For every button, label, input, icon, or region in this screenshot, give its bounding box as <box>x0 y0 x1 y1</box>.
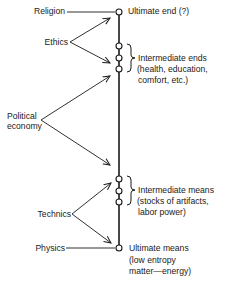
technics-label: Technics <box>38 209 71 220</box>
political-economy-arrow-down <box>41 120 110 165</box>
ultimate-means-detail-line1: (low entropy <box>129 255 176 266</box>
technics-arrow-down <box>72 214 111 243</box>
political-economy-arrow-up <box>41 76 110 120</box>
ultimate-means-detail-line2: matter—energy) <box>129 266 191 277</box>
ultimate-means-node <box>116 245 122 251</box>
ultimate-means-label: Ultimate means <box>129 243 189 254</box>
intermediate-end-node-2 <box>116 55 122 61</box>
political-economy-label-line2: economy <box>7 121 42 132</box>
intermediate-ends-detail-line1: (health, education, <box>137 64 208 75</box>
intermediate-means-node-3 <box>116 199 122 205</box>
ultimate-end-node <box>116 9 122 15</box>
ends-means-spectrum-diagram <box>0 0 225 285</box>
intermediate-means-label: Intermediate means <box>138 185 214 196</box>
intermediate-means-detail-line1: (stocks of artifacts, <box>137 196 209 207</box>
intermediate-means-node-2 <box>116 188 122 194</box>
technics-arrow-up <box>72 183 111 214</box>
ethics-arrow-down <box>70 42 110 63</box>
ultimate-end-label: Ultimate end (?) <box>128 6 189 17</box>
ethics-arrow-up <box>70 18 110 42</box>
intermediate-end-node-3 <box>116 66 122 72</box>
political-economy-label-line1: Political <box>7 111 37 122</box>
physics-label: Physics <box>35 243 65 254</box>
intermediate-ends-detail-line2: comfort, etc.) <box>138 75 188 86</box>
intermediate-means-detail-line2: labor power) <box>138 207 186 218</box>
intermediate-means-node-1 <box>116 176 122 182</box>
religion-label: Religion <box>34 6 65 17</box>
intermediate-ends-brace <box>127 44 135 72</box>
intermediate-means-brace <box>127 176 135 205</box>
intermediate-end-node-1 <box>116 43 122 49</box>
intermediate-ends-label: Intermediate ends <box>138 53 207 64</box>
ethics-label: Ethics <box>45 37 68 48</box>
